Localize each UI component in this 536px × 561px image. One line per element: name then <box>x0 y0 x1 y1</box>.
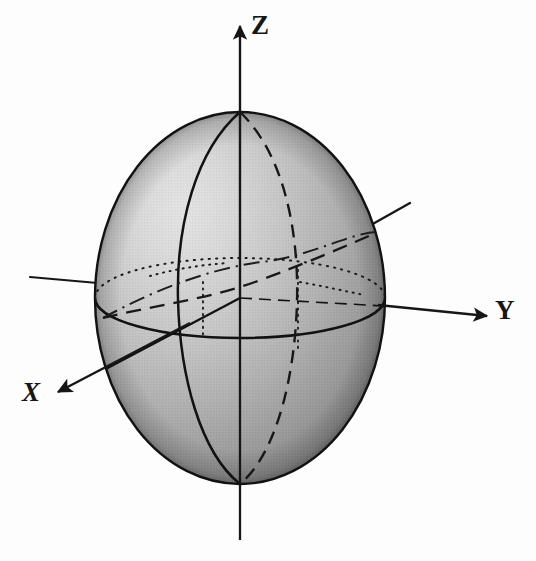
ellipsoid-axes-figure <box>0 0 536 561</box>
x-axis-label: X <box>22 379 40 406</box>
figure-canvas: Z Y X <box>0 0 536 561</box>
z-axis-label: Z <box>251 12 269 39</box>
y-axis-line <box>378 305 487 316</box>
y-axis-label: Y <box>495 297 515 324</box>
